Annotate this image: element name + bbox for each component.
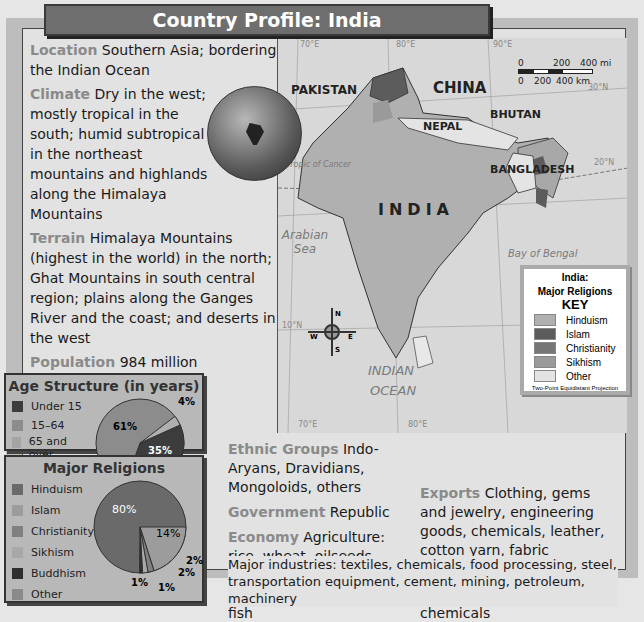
key-item: Sikhism (534, 356, 626, 368)
legend-label: Hinduism (31, 483, 83, 496)
scale-label: 0 (518, 58, 524, 68)
globe-icon (207, 86, 302, 181)
legend-label: Sikhism (31, 546, 74, 559)
legend-label: Christianity (31, 525, 94, 538)
terrain-entry: Terrain Himalaya Mountains (highest in t… (30, 228, 280, 348)
legend-label: Islam (31, 504, 61, 517)
scale-label: 400 mi (580, 58, 611, 68)
label-bhutan: BHUTAN (490, 108, 541, 121)
compass-rose-icon: N S E W (308, 308, 356, 356)
label-indian: INDIAN (368, 363, 414, 378)
pie-label: 1% (158, 582, 175, 593)
compass-e: E (348, 333, 353, 341)
pie-label: 14% (156, 527, 180, 540)
label-ocean: OCEAN (370, 383, 416, 398)
key-item: Hinduism (534, 314, 626, 326)
map-scale: 0 200 400 mi 0 200 400 km (518, 58, 598, 88)
scale-label: 200 (534, 76, 551, 86)
exports-entry: Exports Clothing, gems and jewelry, engi… (420, 484, 620, 560)
grid-label: 80°E (408, 420, 427, 429)
pie-label: 2% (186, 555, 203, 566)
legend-label: Under 15 (31, 400, 82, 413)
pie-label: 80% (112, 503, 136, 516)
key-heading: KEY (524, 297, 626, 312)
scale-label: 400 km (556, 76, 590, 86)
population-entry: Population 984 million (30, 352, 280, 372)
legend-label: Buddhism (31, 567, 86, 580)
industries-continued (420, 440, 620, 478)
religion-legend: Hinduism Islam Christianity Sikhism Budd… (12, 479, 94, 605)
legend-label: Other (31, 588, 62, 601)
age-structure-chart: Age Structure (in years) Under 15 15–64 … (4, 373, 204, 451)
label-bay-of-bengal: Bay of Bengal (508, 248, 578, 259)
label-nepal: NEPAL (423, 120, 462, 133)
projection-note: Two-Point Equidistant Projection (524, 385, 626, 391)
grid-label: 20°N (594, 158, 614, 167)
label-china: CHINA (433, 79, 486, 97)
grid-label: 90°E (493, 40, 512, 49)
key-subtitle: Major Religions (524, 286, 626, 297)
compass-w: W (310, 333, 318, 341)
chart-title: Major Religions (6, 460, 202, 476)
scale-label: 0 (518, 76, 524, 86)
key-item: Christianity (534, 342, 626, 354)
label-pakistan: PAKISTAN (291, 83, 357, 97)
climate-entry: Climate Dry in the west; mostly tropical… (30, 84, 215, 224)
grid-label: 10°N (282, 321, 302, 330)
grid-label: 80°E (396, 40, 415, 49)
legend-label: 15–64 (31, 419, 65, 432)
pie-label: 4% (178, 396, 195, 407)
pie-label: 61% (113, 421, 137, 432)
page-title: Country Profile: India (44, 4, 490, 36)
label-bangladesh: BANGLADESH (490, 163, 574, 176)
grid-label: 70°E (298, 420, 317, 429)
key-title: India: (524, 272, 626, 283)
ethnic-entry: Ethnic Groups Indo-Aryans, Dravidians, M… (228, 440, 418, 497)
major-religions-chart: Major Religions Hinduism Islam Christian… (4, 455, 204, 603)
label-arabian-sea: Arabian Sea (280, 228, 330, 256)
compass-s: S (335, 346, 340, 354)
key-item: Islam (534, 328, 626, 340)
scale-label: 200 (553, 58, 570, 68)
location-entry: Location Southern Asia; bordering the In… (30, 40, 280, 80)
pie-label: 2% (178, 567, 195, 578)
industries-entry: Major industries: textiles, chemicals, f… (228, 556, 618, 607)
pie-label: 1% (131, 577, 148, 588)
chart-title: Age Structure (in years) (6, 378, 202, 394)
label-tropic: Tropic of Cancer (286, 160, 351, 169)
government-entry: Government Republic (228, 503, 418, 522)
label-india: INDIA (378, 200, 454, 219)
key-item: Other (534, 370, 626, 382)
compass-n: N (335, 310, 341, 318)
grid-label: 70°E (300, 40, 319, 49)
map-key: India: Major Religions KEY Hinduism Isla… (520, 265, 630, 395)
